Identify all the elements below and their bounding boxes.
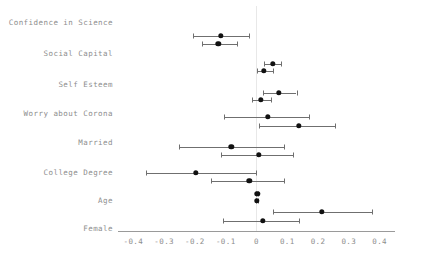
model1-estimate-dot [193, 170, 198, 175]
model2-ci-cap-low [252, 98, 253, 103]
x-tick-label: 0.1 [280, 237, 295, 246]
model2-estimate-dot [260, 218, 265, 223]
model1-ci-cap-low [179, 145, 180, 150]
model1-ci-line [146, 173, 256, 174]
coefficient-plot: Confidence in ScienceSocial CapitalSelf … [0, 0, 425, 260]
model1-ci-cap-high [281, 62, 282, 67]
model1-estimate-dot [319, 209, 324, 214]
model2-ci-cap-high [273, 69, 274, 74]
model2-ci-cap-high [299, 219, 300, 224]
model2-ci-cap-high [271, 98, 272, 103]
model1-estimate-dot [276, 90, 281, 95]
model2-ci-cap-low [202, 42, 203, 47]
model1-ci-cap-high [256, 171, 257, 176]
model1-ci-cap-high [372, 210, 373, 215]
row-label: Worry about Corona [24, 109, 113, 118]
x-tick-label: 0.2 [311, 237, 326, 246]
model2-ci-cap-low [211, 179, 212, 184]
model1-ci-cap-low [263, 91, 264, 96]
model1-estimate-dot [270, 61, 275, 66]
row-label: Age [98, 196, 113, 205]
model2-ci-cap-low [221, 153, 222, 158]
model1-ci-cap-low [273, 210, 274, 215]
model2-estimate-dot [258, 97, 263, 102]
model2-ci-cap-high [293, 153, 294, 158]
x-tick-label: -0.2 [185, 237, 205, 246]
model1-ci-cap-high [297, 91, 298, 96]
model1-ci-cap-high [284, 145, 285, 150]
row-label: Female [83, 224, 113, 233]
zero-reference-line [256, 6, 257, 231]
model2-estimate-dot [261, 68, 266, 73]
x-axis-line [118, 231, 395, 232]
model2-estimate-dot [246, 178, 251, 183]
model2-ci-cap-low [223, 219, 224, 224]
model1-ci-cap-low [146, 171, 147, 176]
x-tick-label: -0.1 [216, 237, 236, 246]
row-label: Confidence in Science [9, 18, 113, 27]
model2-estimate-dot [216, 41, 221, 46]
x-tick-label: 0.3 [341, 237, 356, 246]
model1-estimate-dot [218, 33, 223, 38]
x-tick-label: 0.4 [372, 237, 387, 246]
row-label: Self Esteem [58, 80, 113, 89]
model1-estimate-dot [265, 114, 270, 119]
x-tick-label: -0.3 [154, 237, 174, 246]
model2-ci-cap-high [335, 124, 336, 129]
model1-ci-cap-low [224, 115, 225, 120]
model2-ci-cap-high [284, 179, 285, 184]
model1-estimate-dot [229, 144, 234, 149]
model1-ci-cap-high [249, 34, 250, 39]
model1-ci-cap-low [193, 34, 194, 39]
model2-ci-cap-low [259, 124, 260, 129]
row-label: Social Capital [43, 49, 113, 58]
model1-ci-cap-low [264, 62, 265, 67]
model2-estimate-dot [296, 123, 301, 128]
model2-ci-cap-high [237, 42, 238, 47]
plot-area: Confidence in ScienceSocial CapitalSelf … [0, 0, 425, 260]
model2-ci-cap-low [257, 69, 258, 74]
model1-ci-cap-high [309, 115, 310, 120]
model2-estimate-dot [256, 152, 261, 157]
row-label: Married [78, 138, 113, 147]
row-label: College Degree [43, 168, 113, 177]
x-tick-label: -0.4 [124, 237, 144, 246]
x-tick-label: 0 [254, 237, 259, 246]
